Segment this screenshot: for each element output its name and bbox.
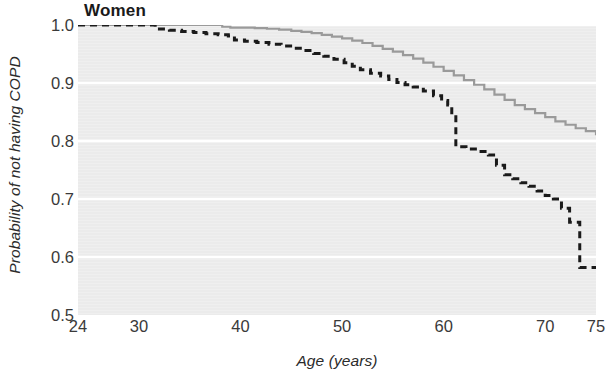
y-axis-label-container: Probability of not having COPD [0, 0, 30, 330]
plot-texture-line [78, 175, 596, 176]
plot-svg [78, 25, 596, 315]
plot-texture-line [78, 307, 596, 308]
y-tick-label: 0.7 [32, 191, 74, 208]
x-axis-label: Age (years) [296, 352, 377, 369]
plot-texture-line [78, 250, 596, 251]
plot-texture-line [78, 190, 596, 191]
plot-texture-line [78, 61, 596, 62]
plot-texture-line [78, 55, 596, 56]
plot-texture-line [78, 301, 596, 302]
x-tick-label: 60 [434, 318, 452, 335]
plot-texture-line [78, 214, 596, 215]
x-tick-label: 30 [130, 318, 148, 335]
x-tick-label: 70 [536, 318, 554, 335]
plot-texture-line [78, 205, 596, 206]
plot-texture-line [78, 106, 596, 107]
plot-texture-line [78, 196, 596, 197]
x-tick-label: 75 [587, 318, 605, 335]
plot-texture-line [78, 268, 596, 269]
plot-texture-line [78, 184, 596, 185]
plot-texture-line [78, 94, 596, 95]
plot-texture-line [78, 286, 596, 287]
plot-texture-line [78, 169, 596, 170]
plot-texture-line [78, 172, 596, 173]
plot-area [78, 25, 596, 315]
plot-texture-line [78, 223, 596, 224]
x-tick-label: 24 [69, 318, 87, 335]
y-tick-label: 0.9 [32, 75, 74, 92]
plot-texture-line [78, 49, 596, 50]
y-tick-label: 0.5 [32, 307, 74, 324]
y-axis-tick-labels: 0.50.60.70.80.91.0 [28, 0, 74, 384]
plot-texture-line [78, 262, 596, 263]
x-tick-label: 40 [231, 318, 249, 335]
y-tick-label: 0.8 [32, 133, 74, 150]
plot-texture-line [78, 127, 596, 128]
plot-texture-line [78, 202, 596, 203]
plot-texture-line [78, 247, 596, 248]
plot-texture-line [78, 298, 596, 299]
plot-texture-line [78, 235, 596, 236]
plot-texture-line [78, 85, 596, 86]
y-tick-label: 0.6 [32, 249, 74, 266]
plot-texture-line [78, 124, 596, 125]
plot-texture-line [78, 208, 596, 209]
plot-texture-line [78, 280, 596, 281]
plot-texture-line [78, 181, 596, 182]
plot-texture-line [78, 217, 596, 218]
plot-texture-line [78, 79, 596, 80]
plot-texture-line [78, 43, 596, 44]
plot-texture-line [78, 73, 596, 74]
plot-texture-line [78, 310, 596, 311]
plot-texture-line [78, 76, 596, 77]
plot-texture-line [78, 187, 596, 188]
plot-texture-line [78, 70, 596, 71]
plot-texture-line [78, 241, 596, 242]
plot-texture-line [78, 88, 596, 89]
plot-texture-line [78, 136, 596, 137]
plot-texture-line [78, 244, 596, 245]
plot-texture-line [78, 91, 596, 92]
plot-texture-line [78, 271, 596, 272]
y-tick-label: 1.0 [32, 17, 74, 34]
plot-texture-line [78, 226, 596, 227]
plot-texture-line [78, 118, 596, 119]
plot-texture-line [78, 232, 596, 233]
plot-texture-line [78, 259, 596, 260]
plot-texture-line [78, 145, 596, 146]
y-axis-label: Probability of not having COPD [6, 56, 24, 274]
plot-texture-line [78, 220, 596, 221]
plot-texture-line [78, 166, 596, 167]
chart-title: Women [84, 1, 146, 21]
plot-texture-line [78, 229, 596, 230]
plot-texture-line [78, 52, 596, 53]
plot-texture-line [78, 289, 596, 290]
plot-texture-line [78, 154, 596, 155]
plot-texture-line [78, 28, 596, 29]
plot-texture-line [78, 253, 596, 254]
plot-texture-line [78, 115, 596, 116]
plot-texture-line [78, 97, 596, 98]
plot-texture-line [78, 40, 596, 41]
plot-texture-line [78, 313, 596, 314]
plot-texture-line [78, 112, 596, 113]
plot-texture-line [78, 211, 596, 212]
plot-texture-line [78, 121, 596, 122]
plot-texture-line [78, 265, 596, 266]
plot-texture-line [78, 46, 596, 47]
plot-texture-line [78, 163, 596, 164]
plot-texture-line [78, 109, 596, 110]
plot-texture-line [78, 67, 596, 68]
plot-texture-line [78, 292, 596, 293]
plot-texture-line [78, 100, 596, 101]
plot-texture-line [78, 148, 596, 149]
plot-texture-line [78, 274, 596, 275]
plot-texture-line [78, 34, 596, 35]
plot-texture-line [78, 283, 596, 284]
plot-texture-line [78, 193, 596, 194]
plot-texture-line [78, 277, 596, 278]
plot-texture-line [78, 133, 596, 134]
plot-texture-line [78, 64, 596, 65]
plot-texture-line [78, 304, 596, 305]
chart-figure: Probability of not having COPD Women 0.5… [0, 0, 612, 384]
